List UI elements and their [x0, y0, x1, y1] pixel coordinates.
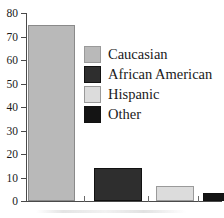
legend-swatch-caucasian [84, 46, 101, 63]
chart-legend: CaucasianAfrican AmericanHispanicOther [84, 44, 212, 124]
y-axis-tick-label: 30 [7, 126, 19, 138]
y-axis-tick-label: 10 [7, 173, 19, 185]
legend-item: Other [84, 104, 212, 124]
legend-item: Hispanic [84, 84, 212, 104]
legend-label: Hispanic [108, 87, 160, 102]
legend-label: African American [108, 67, 212, 82]
legend-label: Other [108, 107, 141, 122]
scan-artifact [36, 210, 186, 213]
x-axis-line [26, 201, 222, 202]
legend-swatch-african-american [84, 66, 101, 83]
legend-item: African American [84, 64, 212, 84]
y-axis-tick-label: 60 [7, 55, 19, 67]
y-axis-tick: 0 [21, 201, 26, 202]
y-axis-tick-label: 20 [7, 149, 19, 161]
y-axis-tick-label: 0 [12, 196, 18, 208]
bar-caucasian [28, 25, 75, 201]
bar-african-american [94, 168, 142, 201]
y-axis-tick-label: 50 [7, 79, 19, 91]
y-axis-tick-label: 40 [7, 102, 19, 114]
bar-hispanic [156, 186, 194, 201]
legend-item: Caucasian [84, 44, 212, 64]
legend-swatch-other [84, 106, 101, 123]
y-axis-tick-label: 70 [7, 32, 19, 44]
bar-other [203, 193, 224, 201]
bar-chart: 80706050403020100 CaucasianAfrican Ameri… [0, 0, 224, 218]
legend-label: Caucasian [108, 47, 168, 62]
legend-swatch-hispanic [84, 86, 101, 103]
y-axis-tick-label: 80 [7, 8, 19, 20]
